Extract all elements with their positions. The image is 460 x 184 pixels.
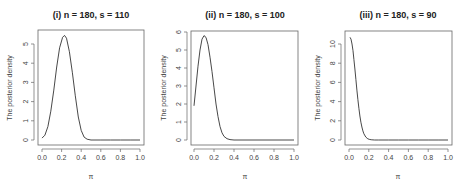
y-tick-label: 3 — [22, 80, 29, 84]
x-tick-label: 0.8 — [269, 154, 279, 161]
panel-3-title: (iii) n = 180, s = 90 — [359, 10, 436, 20]
posterior-density-figure: (i) n = 180, s = 110 0.00.20.40.60.81.0 … — [0, 0, 460, 184]
panel-1-y-axis: 012345 — [22, 42, 34, 142]
panel-3-plot-frame — [345, 31, 452, 145]
x-tick-label: 0.0 — [344, 154, 354, 161]
panel-2-x-label: π — [243, 173, 248, 180]
panel-1-title: (i) n = 180, s = 110 — [53, 10, 130, 20]
y-tick-label: 2 — [329, 119, 336, 123]
y-tick-label: 5 — [175, 48, 182, 52]
y-tick-label: 1 — [22, 119, 29, 123]
y-tick-label: 4 — [175, 66, 182, 70]
panel-3-x-label: π — [396, 173, 401, 180]
x-tick-label: 0.0 — [37, 154, 47, 161]
y-tick-label: 0 — [22, 138, 29, 142]
x-tick-label: 0.2 — [364, 154, 374, 161]
x-tick-label: 1.0 — [289, 154, 299, 161]
x-tick-label: 0.0 — [189, 154, 199, 161]
y-tick-label: 2 — [22, 100, 29, 104]
y-tick-label: 10 — [329, 40, 336, 48]
panel-2: (ii) n = 180, s = 100 0.00.20.40.60.81.0… — [160, 10, 299, 180]
panel-1-y-label: The posterior density — [6, 55, 14, 121]
y-tick-label: 0 — [175, 138, 182, 142]
panel-3-density-curve — [350, 37, 448, 140]
panel-2-title: (ii) n = 180, s = 100 — [205, 10, 285, 20]
y-tick-label: 2 — [175, 102, 182, 106]
x-tick-label: 0.6 — [96, 154, 106, 161]
panel-1: (i) n = 180, s = 110 0.00.20.40.60.81.0 … — [6, 10, 145, 180]
y-tick-label: 1 — [175, 120, 182, 124]
y-tick-label: 3 — [175, 84, 182, 88]
panel-2-y-axis: 0123456 — [175, 30, 187, 142]
panel-2-density-curve — [194, 36, 294, 140]
y-tick-label: 8 — [329, 61, 336, 65]
x-tick-label: 0.4 — [384, 154, 394, 161]
panel-3-y-axis: 0246810 — [329, 40, 341, 142]
panel-3: (iii) n = 180, s = 90 0.00.20.40.60.81.0… — [314, 10, 453, 180]
y-tick-label: 6 — [175, 30, 182, 34]
y-tick-label: 6 — [329, 80, 336, 84]
panel-2-plot-frame — [191, 31, 298, 145]
panel-2-y-label: The posterior density — [160, 55, 168, 121]
x-tick-label: 1.0 — [135, 154, 145, 161]
x-tick-label: 0.2 — [209, 154, 219, 161]
panel-1-x-axis: 0.00.20.40.60.81.0 — [37, 149, 145, 161]
y-tick-label: 0 — [329, 138, 336, 142]
panel-1-x-label: π — [89, 173, 94, 180]
x-tick-label: 1.0 — [443, 154, 453, 161]
x-tick-label: 0.4 — [76, 154, 86, 161]
panel-3-y-label: The posterior density — [314, 55, 322, 121]
panel-3-x-axis: 0.00.20.40.60.81.0 — [344, 149, 453, 161]
x-tick-label: 0.6 — [249, 154, 259, 161]
x-tick-label: 0.2 — [57, 154, 67, 161]
x-tick-label: 0.8 — [116, 154, 126, 161]
y-tick-label: 5 — [22, 42, 29, 46]
x-tick-label: 0.6 — [404, 154, 414, 161]
panel-2-x-axis: 0.00.20.40.60.81.0 — [189, 149, 299, 161]
y-tick-label: 4 — [22, 61, 29, 65]
x-tick-label: 0.4 — [229, 154, 239, 161]
panel-1-density-curve — [42, 35, 140, 140]
x-tick-label: 0.8 — [423, 154, 433, 161]
y-tick-label: 4 — [329, 100, 336, 104]
